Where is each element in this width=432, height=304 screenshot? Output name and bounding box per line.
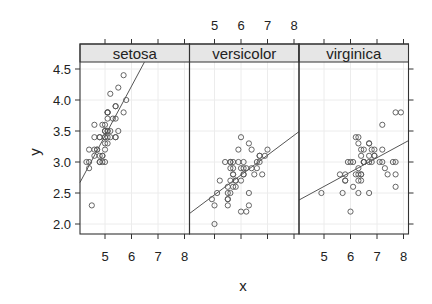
- x-tick-label-bottom: 7: [373, 249, 380, 264]
- y-tick-label: 3.0: [53, 155, 71, 170]
- data-point: [260, 172, 265, 177]
- y-tick-label: 4.5: [53, 62, 71, 77]
- data-point: [337, 172, 342, 177]
- x-tick-label-top: 6: [237, 18, 244, 33]
- panel-strips: setosaversicolorvirginica: [80, 44, 409, 62]
- data-point: [249, 147, 254, 152]
- x-tick-label-top: 5: [211, 18, 218, 33]
- x-tick-label-bottom: 7: [154, 249, 161, 264]
- trellis-scatter-chart: setosaversicolorvirginica 5678567856782.…: [0, 0, 432, 304]
- data-point: [372, 153, 377, 158]
- data-point: [225, 203, 230, 208]
- data-point: [92, 135, 97, 140]
- y-tick-label: 4.0: [53, 93, 71, 108]
- data-point: [113, 104, 118, 109]
- x-tick-label-bottom: 5: [101, 249, 108, 264]
- x-tick-label-top: 8: [290, 18, 297, 33]
- panel-frames: [80, 44, 409, 234]
- data-point: [367, 141, 372, 146]
- data-point: [393, 110, 398, 115]
- data-point: [398, 110, 403, 115]
- data-point: [367, 153, 372, 158]
- y-tick-label: 2.0: [53, 217, 71, 232]
- data-point: [254, 166, 259, 171]
- x-tick-label-bottom: 6: [128, 249, 135, 264]
- data-point: [116, 85, 121, 90]
- data-point: [351, 184, 356, 189]
- x-tick-label-top: 7: [264, 18, 271, 33]
- strip-label-versicolor: versicolor: [212, 45, 276, 62]
- data-point: [121, 73, 126, 78]
- data-point: [231, 172, 236, 177]
- x-tick-label-bottom: 8: [400, 249, 407, 264]
- data-point: [246, 203, 251, 208]
- data-point: [97, 135, 102, 140]
- data-point: [244, 209, 249, 214]
- panel-frame-versicolor: [190, 44, 300, 234]
- x-tick-label-bottom: 5: [320, 249, 327, 264]
- x-tick-label-bottom: 8: [181, 249, 188, 264]
- data-point: [380, 122, 385, 127]
- data-point: [113, 135, 118, 140]
- data-point: [105, 116, 110, 121]
- data-point: [108, 91, 113, 96]
- data-point: [87, 147, 92, 152]
- data-point: [382, 166, 387, 171]
- y-tick-label: 3.5: [53, 124, 71, 139]
- data-point: [246, 141, 251, 146]
- data-point: [217, 178, 222, 183]
- y-axis-title: y: [26, 148, 43, 156]
- x-tick-label-bottom: 6: [347, 249, 354, 264]
- data-point: [359, 153, 364, 158]
- data-point: [257, 153, 262, 158]
- y-tick-label: 2.5: [53, 186, 71, 201]
- data-point: [121, 110, 126, 115]
- data-point: [393, 184, 398, 189]
- data-point: [105, 110, 110, 115]
- data-point: [236, 147, 241, 152]
- data-point: [356, 141, 361, 146]
- data-point: [385, 172, 390, 177]
- x-axis-title: x: [239, 277, 247, 294]
- data-point: [89, 203, 94, 208]
- data-point: [92, 122, 97, 127]
- data-point: [393, 172, 398, 177]
- regression-line-virginica: [299, 141, 409, 200]
- data-point: [343, 178, 348, 183]
- data-point: [225, 197, 230, 202]
- regression-line-versicolor: [190, 132, 300, 214]
- strip-label-setosa: setosa: [113, 45, 158, 62]
- data-point: [252, 172, 257, 177]
- strip-label-virginica: virginica: [326, 45, 382, 62]
- data-point: [380, 147, 385, 152]
